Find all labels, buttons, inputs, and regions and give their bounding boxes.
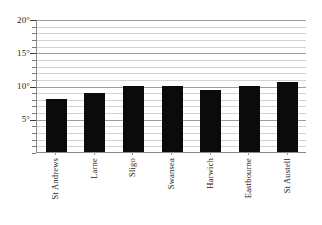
x-axis-category-label: Harwich bbox=[205, 158, 215, 189]
x-axis-tick bbox=[55, 152, 56, 155]
gridline bbox=[37, 47, 306, 48]
x-axis-tick bbox=[171, 152, 172, 155]
x-axis-label-slot: St Austell bbox=[267, 156, 306, 225]
bar bbox=[200, 90, 221, 152]
gridline bbox=[37, 40, 306, 41]
x-axis-label-slot: Harwich bbox=[190, 156, 229, 225]
gridline bbox=[37, 33, 306, 34]
x-axis-tick bbox=[132, 152, 133, 155]
x-axis-label-slot: Swansea bbox=[152, 156, 191, 225]
x-axis-tick bbox=[94, 152, 95, 155]
y-axis-tick-label: 10° bbox=[4, 82, 30, 91]
bar bbox=[162, 86, 183, 153]
gridline bbox=[37, 53, 306, 54]
gridline bbox=[37, 80, 306, 81]
x-axis-tick bbox=[287, 152, 288, 155]
gridline bbox=[37, 73, 306, 74]
x-axis-category-labels: St AndrewsLarneSligoSwanseaHarwichEastbo… bbox=[36, 156, 306, 225]
bar bbox=[123, 86, 144, 153]
bar-chart: 20°15°10°5° St AndrewsLarneSligoSwanseaH… bbox=[0, 0, 322, 225]
x-axis-category-label: St Austell bbox=[282, 158, 292, 193]
y-axis-tick-label: 20° bbox=[4, 16, 30, 25]
x-axis-category-label: Eastbourne bbox=[243, 158, 253, 198]
y-axis-labels: 20°15°10°5° bbox=[0, 0, 30, 225]
x-axis-label-slot: Eastbourne bbox=[229, 156, 268, 225]
x-axis-category-label: St Andrews bbox=[50, 158, 60, 199]
x-axis-label-slot: Larne bbox=[75, 156, 114, 225]
bar bbox=[46, 99, 67, 152]
gridline bbox=[37, 60, 306, 61]
bar bbox=[277, 82, 298, 152]
gridline bbox=[37, 27, 306, 28]
y-axis-tick-label: 5° bbox=[4, 115, 30, 124]
x-axis-category-label: Swansea bbox=[166, 158, 176, 189]
x-axis-category-label: Sligo bbox=[127, 158, 137, 177]
x-axis-category-label: Larne bbox=[89, 158, 99, 179]
gridline bbox=[37, 20, 306, 21]
x-axis-label-slot: St Andrews bbox=[36, 156, 75, 225]
x-axis-tick bbox=[210, 152, 211, 155]
y-axis-tick-label: 15° bbox=[4, 49, 30, 58]
bar bbox=[239, 86, 260, 153]
bar bbox=[84, 93, 105, 152]
gridline bbox=[37, 67, 306, 68]
plot-area bbox=[36, 20, 306, 153]
x-axis-label-slot: Sligo bbox=[113, 156, 152, 225]
x-axis-tick bbox=[248, 152, 249, 155]
